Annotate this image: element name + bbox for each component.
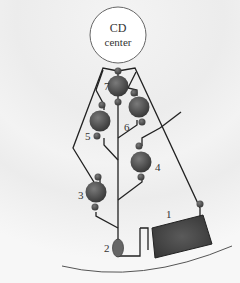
label-2: 2 bbox=[104, 242, 110, 254]
small-node-7-top bbox=[115, 68, 122, 75]
cd-center-label-1: CD bbox=[110, 21, 127, 35]
reservoir-7 bbox=[108, 76, 129, 97]
cd-center-circle bbox=[90, 7, 146, 63]
label-7: 7 bbox=[104, 80, 110, 92]
small-node-6-bottom bbox=[139, 119, 146, 126]
small-node-6-top bbox=[131, 90, 138, 97]
reservoir-3 bbox=[86, 182, 107, 203]
reservoir-4 bbox=[131, 152, 152, 173]
label-3: 3 bbox=[78, 189, 84, 201]
disc-edge bbox=[62, 246, 232, 272]
diagram: CD center 1 2 7 6 bbox=[0, 0, 240, 283]
small-node-5-top bbox=[99, 102, 106, 109]
reservoir-5 bbox=[90, 111, 111, 132]
small-node-7-bottom bbox=[115, 99, 122, 106]
chamber-1 bbox=[152, 215, 212, 258]
label-4: 4 bbox=[155, 161, 161, 173]
cd-center-label-2: center bbox=[105, 36, 132, 48]
label-5: 5 bbox=[85, 130, 91, 142]
small-node-5-bottom bbox=[94, 133, 101, 140]
small-node-4-bottom bbox=[138, 174, 145, 181]
label-6: 6 bbox=[124, 121, 130, 133]
valve-2 bbox=[113, 239, 124, 257]
small-node-3-top bbox=[95, 174, 102, 181]
small-node-1 bbox=[197, 201, 204, 208]
reservoir-6 bbox=[129, 97, 150, 118]
small-node-4-top bbox=[136, 143, 143, 150]
label-1: 1 bbox=[166, 208, 172, 220]
diagram-svg: CD center 1 2 7 6 bbox=[0, 0, 240, 283]
small-node-3-bottom bbox=[92, 204, 99, 211]
